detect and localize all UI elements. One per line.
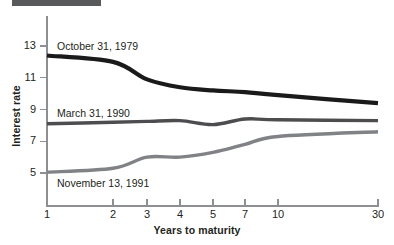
x-axis-title: Years to maturity <box>0 224 394 236</box>
series-label-november-1991: November 13, 1991 <box>57 178 149 189</box>
series-label-october-1979: October 31, 1979 <box>57 41 138 52</box>
series-lines <box>0 0 394 245</box>
y-axis-title: Interest rate <box>10 61 22 171</box>
series-label-march-1990: March 31, 1990 <box>57 108 130 119</box>
yield-curve-figure: 1311975 1234571030 October 31, 1979 Marc… <box>0 0 394 245</box>
plot-area: 1311975 1234571030 October 31, 1979 Marc… <box>0 0 394 245</box>
series-line-2 <box>47 132 378 172</box>
series-line-1 <box>47 119 378 125</box>
series-line-0 <box>47 56 378 104</box>
